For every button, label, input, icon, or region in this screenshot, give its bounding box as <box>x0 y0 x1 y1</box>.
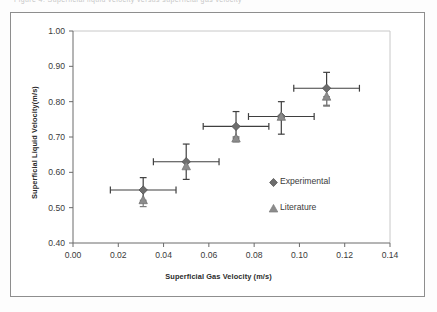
chart-plot-area: 0.000.020.040.060.080.100.120.140.400.50… <box>0 0 437 312</box>
x-tick-label: 0.00 <box>53 250 93 260</box>
y-axis-title: Superficial Liquid Velocity(m/s) <box>30 43 39 243</box>
x-tick-label: 0.06 <box>189 250 229 260</box>
x-tick-label: 0.02 <box>98 250 138 260</box>
x-tick-label: 0.14 <box>370 250 410 260</box>
data-marker-triangle <box>232 134 240 142</box>
legend-triangle-icon <box>268 203 279 214</box>
x-tick-label: 0.12 <box>325 250 365 260</box>
data-marker-diamond <box>139 186 147 194</box>
x-tick-label: 0.10 <box>279 250 319 260</box>
x-axis-title: Superficial Gas Velocity (m/s) <box>0 272 437 281</box>
data-marker-diamond <box>232 122 240 130</box>
legend-label: Experimental <box>280 176 330 186</box>
y-tick-label: 1.00 <box>31 26 65 36</box>
data-marker-triangle <box>139 195 147 203</box>
figure-root: Figure 4. Superficial liquid velocity ve… <box>0 0 437 312</box>
x-tick-label: 0.04 <box>144 250 184 260</box>
legend-diamond-icon <box>268 177 279 188</box>
legend-label: Literature <box>280 202 316 212</box>
data-marker-triangle <box>322 92 330 100</box>
x-tick-label: 0.08 <box>234 250 274 260</box>
scatter-plot-canvas <box>0 0 437 312</box>
